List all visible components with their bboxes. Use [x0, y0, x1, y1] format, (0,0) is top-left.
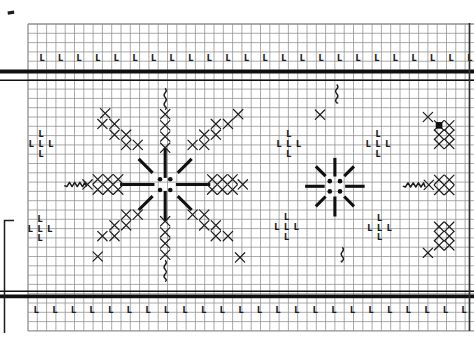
l-cluster-stitch: L [286, 140, 291, 149]
x-stitch-mark [445, 121, 454, 130]
x-stitch-mark [100, 109, 109, 118]
bottom-l-row-l-stitch: L [145, 306, 150, 315]
x-stitch-mark [233, 110, 242, 119]
bottom-l-row-l-stitch: L [238, 306, 243, 315]
bottom-l-row-l-stitch: L [71, 306, 76, 315]
scanned-pattern-page: LLLLLLLLLLLLLLLLLLLLLLLLLLLLLLLLLLLLLLLL… [0, 0, 474, 360]
scan-dash-artifact [8, 11, 15, 15]
bold-arm-segment [178, 196, 192, 210]
x-stitch-mark [110, 130, 119, 139]
vertical-squiggle-mark [336, 84, 338, 103]
l-stitch-marks: LLLLLLLLLLLLLLLLLLLLLLLLLLLLLLLLLLLLLLLL… [28, 54, 473, 315]
x-stitch-mark [207, 175, 216, 184]
x-stitch-mark [110, 231, 119, 240]
x-stitch-mark [160, 239, 169, 248]
bottom-l-row-l-stitch: L [108, 306, 113, 315]
bottom-l-row-l-stitch: L [90, 306, 95, 315]
l-cluster-stitch: L [284, 233, 289, 242]
x-stitch-mark [223, 231, 232, 240]
l-cluster-stitch: L [38, 234, 43, 243]
bottom-l-row-l-stitch: L [276, 306, 281, 315]
l-cluster-stitch: L [277, 140, 282, 149]
x-stitch-mark [434, 241, 443, 250]
x-stitch-mark [218, 185, 227, 194]
l-cluster-stitch: L [48, 140, 53, 149]
l-cluster-stitch: L [284, 223, 289, 232]
x-stitch-mark [434, 185, 443, 194]
snowflake-center-dot [338, 179, 343, 184]
top-l-row-l-stitch: L [411, 54, 416, 63]
bottom-l-row-l-stitch: L [183, 306, 188, 315]
bottom-l-row-l-stitch: L [52, 306, 57, 315]
x-stitch-mark [133, 210, 142, 219]
top-l-row-l-stitch: L [263, 54, 268, 63]
vertical-squiggle-mark [164, 88, 166, 109]
x-stitch-mark [445, 130, 454, 139]
x-stitch-mark [211, 119, 220, 128]
x-stitch-mark [211, 231, 220, 240]
top-l-row-l-stitch: L [244, 54, 249, 63]
x-stitch-mark [160, 250, 169, 259]
l-cluster-stitch: L [286, 150, 291, 159]
x-stitch-mark [207, 185, 216, 194]
top-l-row-l-stitch: L [188, 54, 193, 63]
x-stitch-mark [445, 222, 454, 231]
l-cluster-stitch: L [38, 140, 43, 149]
x-stitch-mark [121, 130, 130, 139]
x-stitch-mark [103, 175, 112, 184]
snowflake-center-dot [168, 188, 173, 193]
top-l-row-l-stitch: L [114, 54, 119, 63]
bottom-l-row-l-stitch: L [462, 306, 467, 315]
x-stitch-mark [114, 185, 123, 194]
l-cluster-stitch: L [377, 233, 382, 242]
bottom-l-row-l-stitch: L [294, 306, 299, 315]
l-cluster-stitch: L [376, 140, 381, 149]
top-l-row-l-stitch: L [151, 54, 156, 63]
top-l-row-l-stitch: L [170, 54, 175, 63]
top-l-row-l-stitch: L [132, 54, 137, 63]
top-l-row-l-stitch: L [77, 54, 82, 63]
x-stitch-mark [445, 175, 454, 184]
bold-arm-segment [316, 197, 326, 207]
bottom-l-row-l-stitch: L [424, 306, 429, 315]
x-stitch-mark [160, 121, 169, 130]
adjacent-figure-border [5, 221, 15, 334]
l-cluster-stitch: L [296, 140, 301, 149]
bold-arm-segment [344, 166, 354, 176]
bold-arm-segment [139, 159, 153, 173]
x-stitch-mark [103, 185, 112, 194]
x-stitch-mark [434, 139, 443, 148]
x-stitch-mark [200, 130, 209, 139]
top-l-row-l-stitch: L [356, 54, 361, 63]
l-cluster-stitch: L [376, 150, 381, 159]
l-cluster-stitch: L [29, 140, 34, 149]
x-stitch-mark [434, 175, 443, 184]
vertical-squiggle-mark [341, 247, 343, 262]
snowflake-center-dot [327, 179, 332, 184]
bold-arm-segment [316, 166, 326, 176]
x-stitch-mark [160, 110, 169, 119]
l-cluster-stitch: L [38, 130, 43, 139]
x-stitch-mark [93, 175, 102, 184]
top-l-row-l-stitch: L [207, 54, 212, 63]
x-stitch-mark [434, 231, 443, 240]
x-stitch-mark [110, 119, 119, 128]
bottom-l-row-l-stitch: L [443, 306, 448, 315]
x-stitch-mark [235, 253, 244, 262]
bottom-l-row-l-stitch: L [34, 306, 39, 315]
snowflake-center-dot [338, 189, 343, 194]
bottom-l-row-l-stitch: L [201, 306, 206, 315]
l-cluster-stitch: L [286, 130, 291, 139]
top-l-row-l-stitch: L [374, 54, 379, 63]
l-cluster-stitch: L [38, 225, 43, 234]
x-stitch-mark [445, 185, 454, 194]
bottom-l-row-l-stitch: L [331, 306, 336, 315]
x-stitch-mark [315, 110, 324, 119]
horizontal-zigzag-mark [64, 182, 86, 186]
top-l-row-l-stitch: L [318, 54, 323, 63]
top-l-row-l-stitch: L [225, 54, 230, 63]
bottom-l-row-l-stitch: L [406, 306, 411, 315]
x-stitch-mark [121, 210, 130, 219]
x-stitch-mark [424, 180, 433, 189]
top-l-row-l-stitch: L [95, 54, 100, 63]
